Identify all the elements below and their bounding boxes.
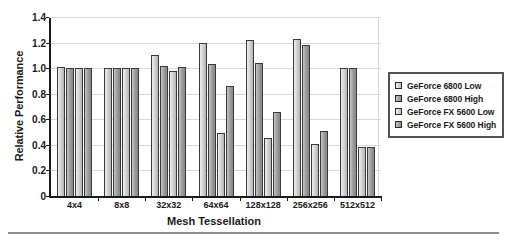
x-axis-tick-mark xyxy=(145,196,146,201)
bar xyxy=(113,68,121,196)
bar xyxy=(311,144,319,196)
y-axis-title: Relative Performance xyxy=(13,11,25,201)
x-axis-tick-label: 64x64 xyxy=(203,200,228,210)
legend-swatch-icon xyxy=(395,121,402,128)
bar xyxy=(66,68,74,196)
y-axis-tick-mark xyxy=(46,196,51,197)
bar xyxy=(273,112,281,196)
bar-group xyxy=(340,17,375,196)
x-axis-tick-mark xyxy=(381,196,382,201)
x-axis-tick-label: 4x4 xyxy=(67,200,82,210)
x-axis-tick-mark xyxy=(192,196,193,201)
bar-group xyxy=(293,17,328,196)
x-axis-tick-mark xyxy=(287,196,288,201)
legend-item-label: GeForce 6800 Low xyxy=(407,81,481,91)
y-axis-tick-label: 1.0 xyxy=(32,63,46,74)
legend-item[interactable]: GeForce FX 5600 Low xyxy=(395,105,496,118)
bar xyxy=(104,68,112,196)
x-axis-tick-mark xyxy=(240,196,241,201)
y-axis-tick-label: 0.2 xyxy=(32,165,46,176)
bar-group xyxy=(246,17,281,196)
bar-group xyxy=(151,17,186,196)
bar-groups xyxy=(51,17,381,196)
x-axis-tick-label: 256x256 xyxy=(293,200,328,210)
bar xyxy=(122,68,130,196)
legend-swatch-icon xyxy=(395,95,402,102)
plot-area: 00.20.40.60.81.01.21.4 4x48x832x3264x641… xyxy=(49,17,381,198)
legend-item[interactable]: GeForce 6800 Low xyxy=(395,79,496,92)
bottom-divider xyxy=(8,232,499,234)
legend-swatch-icon xyxy=(395,108,402,115)
bar xyxy=(217,133,225,196)
bar xyxy=(340,68,348,196)
bar xyxy=(178,67,186,196)
legend-item-label: GeForce FX 5600 Low xyxy=(407,107,494,117)
legend-item-label: GeForce FX 5600 High xyxy=(407,120,496,130)
bar xyxy=(349,68,357,196)
x-axis-title: Mesh Tessellation xyxy=(49,215,379,227)
x-axis-tick-label: 128x128 xyxy=(246,200,281,210)
bar xyxy=(367,147,375,196)
y-axis-tick-label: 1.4 xyxy=(32,12,46,23)
bar xyxy=(160,66,168,196)
bar xyxy=(84,68,92,196)
x-axis-tick-label: 8x8 xyxy=(114,200,129,210)
bar xyxy=(199,43,207,196)
bar-group xyxy=(57,17,92,196)
y-axis-tick-label: 0.8 xyxy=(32,88,46,99)
bar-group xyxy=(199,17,234,196)
bar xyxy=(151,55,159,196)
x-axis-tick-mark xyxy=(334,196,335,201)
bar xyxy=(208,64,216,196)
legend-swatch-icon xyxy=(395,82,402,89)
bar xyxy=(320,131,328,196)
bar xyxy=(57,67,65,196)
bar xyxy=(255,63,263,196)
legend-item[interactable]: GeForce FX 5600 High xyxy=(395,118,496,131)
legend-item-label: GeForce 6800 High xyxy=(407,94,483,104)
y-axis-tick-label: 0.6 xyxy=(32,114,46,125)
x-axis-tick-mark xyxy=(98,196,99,201)
bar xyxy=(131,68,139,196)
bar-chart-figure: Relative Performance 00.20.40.60.81.01.2… xyxy=(0,0,507,241)
chart-legend: GeForce 6800 LowGeForce 6800 HighGeForce… xyxy=(388,72,504,138)
bar xyxy=(246,40,254,196)
x-axis-tick-label: 32x32 xyxy=(156,200,181,210)
bar-group xyxy=(104,17,139,196)
y-axis-tick-label: 1.2 xyxy=(32,37,46,48)
bar xyxy=(226,86,234,196)
bar xyxy=(169,71,177,196)
bar xyxy=(293,39,301,196)
bar xyxy=(358,147,366,196)
legend-item[interactable]: GeForce 6800 High xyxy=(395,92,496,105)
y-axis-tick-label: 0.4 xyxy=(32,139,46,150)
bar xyxy=(75,68,83,196)
x-axis-tick-label: 512x512 xyxy=(340,200,375,210)
bar xyxy=(302,45,310,196)
bar xyxy=(264,138,272,196)
